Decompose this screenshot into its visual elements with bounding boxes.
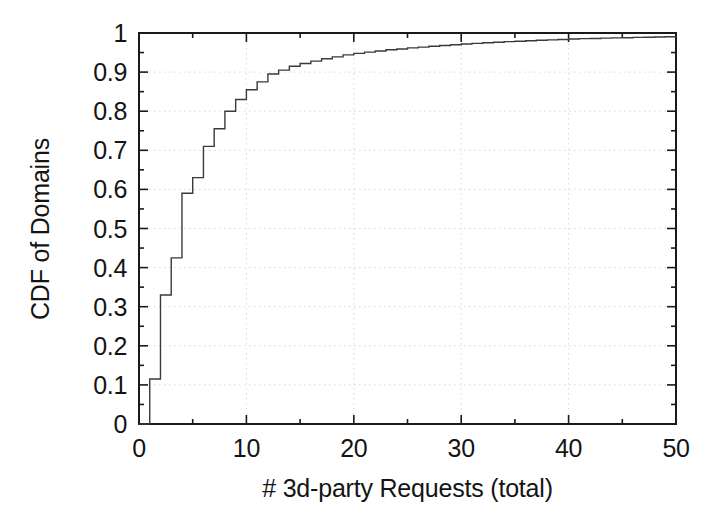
- cdf-step-line: [139, 37, 676, 424]
- x-axis-title: # 3d-party Requests (total): [48, 474, 720, 503]
- x-tick-label: 10: [233, 434, 260, 463]
- y-tick-label: 0: [113, 410, 127, 439]
- y-tick-label: 0.5: [93, 214, 127, 243]
- y-tick-label: 0.3: [93, 292, 127, 321]
- x-tick-label: 50: [662, 434, 689, 463]
- y-tick-label: 0.8: [93, 97, 127, 126]
- y-tick-label: 0.7: [93, 136, 127, 165]
- chart-figure: 00.10.20.30.40.50.60.70.80.91 0102030405…: [0, 0, 720, 529]
- y-tick-label: 1: [113, 19, 127, 48]
- x-tick-label: 20: [340, 434, 367, 463]
- y-tick-label: 0.4: [93, 253, 127, 282]
- y-tick-label: 0.1: [93, 370, 127, 399]
- x-tick-label: 30: [448, 434, 475, 463]
- x-tick-label: 0: [132, 434, 146, 463]
- y-tick-label: 0.2: [93, 331, 127, 360]
- y-tick-label: 0.6: [93, 175, 127, 204]
- grid-lines: [139, 33, 676, 424]
- y-tick-label: 0.9: [93, 58, 127, 87]
- y-axis-title: CDF of Domains: [26, 29, 55, 429]
- x-tick-label: 40: [555, 434, 582, 463]
